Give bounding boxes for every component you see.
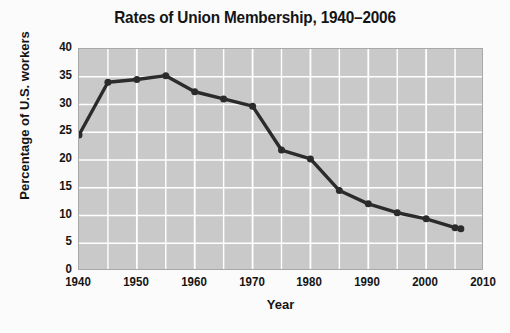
- x-axis-tick-label: 1980: [282, 275, 337, 289]
- x-axis-tick-label: 2010: [455, 275, 510, 289]
- chart-figure: Rates of Union Membership, 1940–2006 051…: [0, 0, 510, 333]
- x-axis-title: Year: [78, 297, 483, 312]
- x-axis-tick-label: 1950: [108, 275, 163, 289]
- x-axis-tick-label: 2000: [398, 275, 453, 289]
- x-axis-tick-label: 1940: [50, 275, 105, 289]
- x-axis-tick-labels: 19401950196019701980199020002010: [0, 0, 510, 333]
- x-axis-tick-label: 1970: [224, 275, 279, 289]
- x-axis-tick-label: 1990: [340, 275, 395, 289]
- x-axis-tick-label: 1960: [166, 275, 221, 289]
